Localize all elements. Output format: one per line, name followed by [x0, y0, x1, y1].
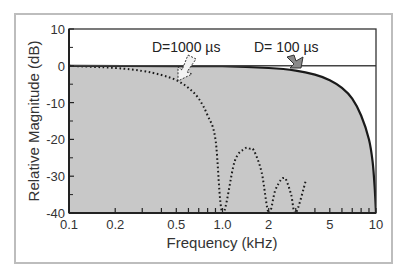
x-axis-title: Frequency (kHz) — [167, 234, 278, 251]
x-tick-label: 5 — [326, 217, 333, 232]
x-tick-label: 1.0 — [213, 217, 231, 232]
x-tick-label: 0.5 — [167, 217, 185, 232]
y-tick-label: -10 — [46, 96, 65, 111]
frequency-response-chart: 100-10-20-30-400.10.20.51.02510 D=1000 µ… — [0, 0, 405, 278]
x-tick-label: 0.1 — [60, 217, 78, 232]
y-tick-label: 0 — [58, 59, 65, 74]
shaded-passband-area — [69, 29, 376, 213]
shaded-region — [69, 66, 376, 213]
x-tick-label: 2 — [265, 217, 272, 232]
x-tick-label: 10 — [369, 217, 383, 232]
y-axis-title: Relative Magnitude (dB) — [25, 41, 42, 202]
annotation-d-1000us: D=1000 µs — [152, 39, 220, 55]
y-tick-label: -30 — [46, 169, 65, 184]
y-tick-label: 10 — [51, 22, 65, 37]
x-tick-label: 0.2 — [106, 217, 124, 232]
y-tick-label: -20 — [46, 132, 65, 147]
annotation-d-100us: D= 100 µs — [254, 39, 319, 55]
